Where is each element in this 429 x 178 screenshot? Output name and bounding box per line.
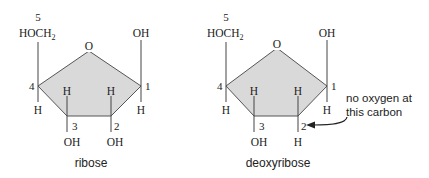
ribose-c4-h: H <box>34 104 42 116</box>
annotation-arrow <box>313 117 347 125</box>
deoxyribose-c2-number: 2 <box>301 120 307 132</box>
ribose-c1-oh: OH <box>133 27 150 39</box>
ribose-structure: O 5 HOCH2 4 H OH 1 H H 3 OH H 2 OH ribos… <box>19 11 151 170</box>
ribose-c1-number: 1 <box>145 80 151 92</box>
deoxyribose-c1-number: 1 <box>331 80 337 92</box>
annotation-line-1: no oxygen at <box>346 92 413 104</box>
ribose-c3-oh: OH <box>64 136 81 148</box>
sugar-structures-diagram: O 5 HOCH2 4 H OH 1 H H 3 OH H 2 OH ribos… <box>0 0 429 178</box>
deoxyribose-c4-h: H <box>222 104 230 116</box>
deoxyribose-c5-number: 5 <box>223 11 229 23</box>
deoxyribose-c3-h: H <box>250 85 258 97</box>
deoxyribose-c3-number: 3 <box>259 120 265 132</box>
ribose-c4-number: 4 <box>29 80 35 92</box>
deoxyribose-caption: deoxyribose <box>246 156 311 170</box>
ribose-c1-h: H <box>137 104 145 116</box>
deoxyribose-c2-h-bottom: H <box>294 136 302 148</box>
deoxyribose-structure: O 5 HOCH2 4 H OH 1 H H 3 OH H 2 H no oxy… <box>207 11 413 170</box>
ribose-c5-number: 5 <box>35 11 41 23</box>
ribose-ring-oxygen: O <box>85 40 93 52</box>
deoxyribose-c4-number: 4 <box>217 80 223 92</box>
ribose-ring <box>38 51 141 116</box>
deoxyribose-c1-oh: OH <box>319 27 336 39</box>
ribose-c2-h: H <box>107 85 115 97</box>
deoxyribose-c3-oh: OH <box>251 136 268 148</box>
annotation-line-2: this carbon <box>346 106 402 118</box>
ribose-c2-oh: OH <box>107 136 124 148</box>
ribose-c3-h: H <box>63 85 71 97</box>
ribose-c2-number: 2 <box>114 120 120 132</box>
deoxyribose-ring <box>226 48 327 116</box>
deoxyribose-ring-oxygen: O <box>273 38 281 50</box>
deoxyribose-c5-group: HOCH2 <box>207 27 244 42</box>
deoxyribose-c2-h: H <box>294 85 302 97</box>
arrowhead-icon <box>306 122 315 129</box>
ribose-caption: ribose <box>75 156 108 170</box>
deoxyribose-c1-h: H <box>323 104 331 116</box>
ribose-c3-number: 3 <box>72 120 78 132</box>
ribose-c5-group: HOCH2 <box>19 27 56 42</box>
